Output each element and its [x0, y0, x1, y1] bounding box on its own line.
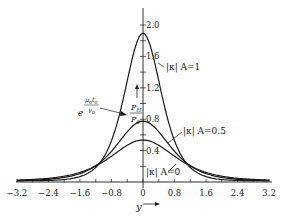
label-a0: |κ| A=0: [146, 167, 181, 178]
exp-base: e: [78, 108, 83, 118]
x-tick-label: −3.2: [7, 188, 28, 198]
exp-arrowhead: [120, 111, 127, 116]
p0-label: P0: [130, 115, 140, 125]
exp-numerator: μ0t0: [85, 96, 98, 105]
x-tick-label: 0.8: [168, 188, 182, 198]
x-tick-label: 3.2: [262, 188, 276, 198]
ph-label: PH: [130, 103, 141, 113]
y-tick-label: 1.2: [146, 83, 160, 93]
x-tick-label: 2.4: [231, 188, 245, 198]
x-tick-label: −2.4: [38, 188, 59, 198]
x-axis-label: y: [135, 201, 142, 212]
y-tick-label: 0.8: [146, 114, 160, 124]
x-tick-label: 0: [140, 188, 145, 198]
y-tick-label: 1.6: [146, 51, 160, 61]
leader-a1: [158, 63, 164, 67]
x-label-arrowhead: [155, 202, 160, 206]
x-tick-label: −0.8: [101, 188, 122, 198]
label-a05: |κ| A=0.5: [183, 126, 226, 137]
y-tick-label: 2.0: [146, 20, 160, 30]
y-tick-label: 0.4: [146, 146, 160, 156]
chart: −3.2−2.4−1.6−0.800.81.62.43.2 0.40.81.21…: [0, 0, 283, 216]
x-tick-label: −1.6: [70, 188, 91, 198]
x-tick-label: 1.6: [199, 188, 213, 198]
exp-denominator: γ0: [88, 106, 95, 115]
label-a1: |κ| A=1: [166, 62, 200, 73]
y-label-arrowhead: [135, 84, 139, 89]
